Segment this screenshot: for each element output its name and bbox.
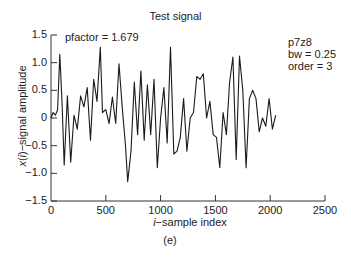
x-tick-label: 1500 <box>195 204 235 216</box>
x-tick-label: 1000 <box>141 204 181 216</box>
signal-name-annotation: p7z8 <box>288 36 312 48</box>
x-tick-label: 0 <box>31 204 71 216</box>
order-annotation: order = 3 <box>288 60 332 72</box>
y-axis-label: x(i)−signal amplitude <box>16 46 28 186</box>
chart-figure: Test signal 1.51.00.50−0.5−1.0−1.5 05001… <box>0 0 351 260</box>
x-tick-label: 500 <box>86 204 126 216</box>
x-axis-label: i−sample index <box>120 216 260 228</box>
y-tick-label: 1.5 <box>17 28 47 40</box>
figure-caption: (e) <box>150 234 190 246</box>
x-tick-label: 2000 <box>250 204 290 216</box>
x-tick-label: 2500 <box>305 204 345 216</box>
signal-line <box>51 47 276 181</box>
bandwidth-annotation: bw = 0.25 <box>288 48 336 60</box>
pfactor-annotation: pfactor = 1.679 <box>65 31 139 43</box>
